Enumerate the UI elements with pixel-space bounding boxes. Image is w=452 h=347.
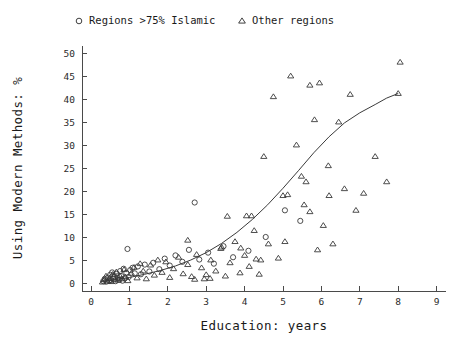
x-tick-label-4: 4 [242, 296, 248, 307]
y-tick-label-50: 50 [64, 48, 76, 59]
point-marker-circle [125, 246, 130, 251]
point-marker-triangle [384, 179, 390, 184]
point-marker-triangle [285, 192, 291, 197]
point-marker-triangle [288, 73, 294, 78]
legend-marker-triangle [239, 18, 246, 23]
point-marker-triangle [167, 275, 173, 280]
point-marker-circle [282, 208, 287, 213]
point-marker-triangle [151, 272, 157, 277]
x-tick-label-8: 8 [395, 296, 401, 307]
legend-label-islamic-regions: Regions >75% Islamic [89, 14, 215, 26]
axis-titles: Education: yearsUsing Modern Methods: % [10, 77, 327, 333]
point-marker-triangle [248, 213, 254, 218]
y-tick-label-25: 25 [64, 163, 75, 174]
point-marker-triangle [237, 270, 243, 275]
x-tick-label-0: 0 [88, 296, 94, 307]
x-tick-label-6: 6 [319, 296, 325, 307]
point-marker-triangle [261, 154, 267, 159]
point-marker-triangle [246, 264, 252, 269]
x-tick-label-7: 7 [357, 296, 363, 307]
point-marker-triangle [397, 59, 403, 64]
x-tick-label-5: 5 [280, 296, 286, 307]
point-marker-triangle [353, 207, 359, 212]
point-marker-triangle [320, 223, 326, 228]
point-marker-circle [173, 253, 178, 258]
point-marker-triangle [293, 142, 299, 147]
legend-label-other-regions: Other regions [252, 14, 334, 26]
y-tick-label-40: 40 [64, 94, 76, 105]
point-marker-triangle [175, 254, 181, 259]
point-marker-triangle [208, 257, 214, 262]
point-marker-circle [186, 247, 191, 252]
point-marker-triangle [336, 119, 342, 124]
chart-axes [82, 46, 446, 291]
chart-legend: Regions >75% IslamicOther regions [76, 14, 334, 26]
y-tick-label-20: 20 [64, 186, 76, 197]
legend-marker-circle [76, 18, 82, 24]
point-marker-triangle [256, 271, 262, 276]
x-tick-label-1: 1 [127, 296, 133, 307]
x-tick-label-9: 9 [434, 296, 440, 307]
point-marker-triangle [213, 268, 219, 273]
point-marker-circle [192, 200, 197, 205]
y-tick-label-5: 5 [69, 255, 75, 266]
point-marker-triangle [198, 265, 204, 270]
point-marker-triangle [307, 209, 313, 214]
point-marker-triangle [325, 163, 331, 168]
y-tick-label-0: 0 [69, 278, 75, 289]
y-axis-title: Using Modern Methods: % [10, 77, 25, 259]
point-marker-triangle [298, 173, 304, 178]
point-marker-triangle [372, 154, 378, 159]
point-marker-triangle [301, 202, 307, 207]
point-marker-triangle [180, 271, 186, 276]
point-marker-triangle [311, 117, 317, 122]
point-marker-triangle [265, 241, 271, 246]
y-tick-label-10: 10 [64, 232, 76, 243]
point-marker-triangle [395, 91, 401, 96]
point-marker-circle [246, 248, 251, 253]
x-axis-title: Education: years [201, 318, 328, 333]
point-marker-triangle [194, 252, 200, 257]
point-marker-triangle [282, 239, 288, 244]
point-marker-triangle [227, 260, 233, 265]
y-tick-label-30: 30 [64, 140, 76, 151]
point-marker-triangle [275, 255, 281, 260]
point-marker-triangle [185, 237, 191, 242]
point-marker-triangle [303, 179, 309, 184]
point-marker-circle [230, 255, 235, 260]
point-marker-triangle [307, 82, 313, 87]
point-marker-triangle [251, 228, 257, 233]
x-tick-label-3: 3 [203, 296, 209, 307]
x-tick-label-2: 2 [165, 296, 171, 307]
point-marker-triangle [270, 94, 276, 99]
y-tick-label-35: 35 [64, 117, 75, 128]
point-marker-triangle [330, 241, 336, 246]
point-marker-triangle [170, 266, 176, 271]
point-marker-triangle [326, 193, 332, 198]
point-marker-triangle [155, 257, 161, 262]
point-marker-triangle [238, 245, 244, 250]
point-marker-circle [263, 234, 268, 239]
point-marker-triangle [143, 276, 149, 281]
point-marker-triangle [232, 239, 238, 244]
y-tick-label-45: 45 [64, 71, 75, 82]
point-marker-triangle [224, 213, 230, 218]
point-marker-triangle [341, 186, 347, 191]
point-marker-triangle [361, 190, 367, 195]
y-tick-label-15: 15 [64, 209, 75, 220]
data-points [99, 59, 403, 284]
point-marker-triangle [314, 247, 320, 252]
chart-canvas: Regions >75% IslamicOther regions 051015… [0, 0, 452, 347]
point-marker-triangle [147, 262, 153, 267]
point-marker-circle [298, 218, 303, 223]
point-marker-triangle [316, 80, 322, 85]
point-marker-triangle [347, 92, 353, 97]
point-marker-triangle [222, 273, 228, 278]
scatter-plot-figure: Regions >75% IslamicOther regions 051015… [0, 0, 452, 347]
point-marker-circle [197, 257, 202, 262]
point-marker-triangle [140, 268, 146, 273]
